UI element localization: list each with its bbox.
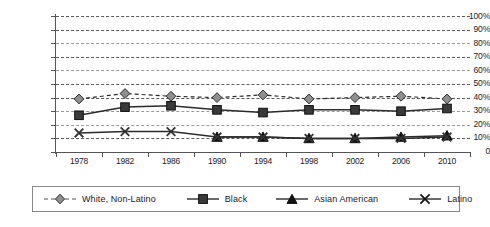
diamond-marker-icon xyxy=(442,94,452,104)
plot-area xyxy=(56,16,470,152)
square-marker-icon xyxy=(75,111,84,120)
x-axis-label: 1986 xyxy=(149,157,193,166)
x-axis-label: 2002 xyxy=(333,157,377,166)
diamond-marker-icon xyxy=(120,89,130,99)
diamond-marker-icon xyxy=(74,94,84,104)
x-marker-icon xyxy=(408,193,442,205)
chart-legend: White, Non-Latino Black Asian American xyxy=(32,186,460,212)
diamond-marker-icon xyxy=(258,90,268,100)
legend-item-asian-american[interactable]: Asian American xyxy=(275,187,378,211)
legend-item-label: Black xyxy=(225,194,248,204)
x-axis-label: 2010 xyxy=(425,157,469,166)
diamond-marker-icon xyxy=(166,91,176,101)
x-axis-label: 2006 xyxy=(379,157,423,166)
triangle-marker-icon xyxy=(275,193,309,205)
square-marker-icon xyxy=(351,106,360,115)
legend-item-label: Latino xyxy=(447,194,472,204)
square-marker-icon xyxy=(121,103,130,112)
square-marker-icon xyxy=(305,106,314,115)
square-marker-icon xyxy=(167,101,176,110)
series-0 xyxy=(74,89,452,104)
square-marker-icon xyxy=(259,108,268,117)
legend-item-latino[interactable]: Latino xyxy=(408,187,472,211)
series-layer xyxy=(56,16,470,152)
diamond-marker-icon xyxy=(43,193,77,205)
square-marker-icon xyxy=(186,193,220,205)
square-marker-icon xyxy=(397,107,406,116)
x-axis-label: 1982 xyxy=(103,157,147,166)
x-axis-label: 1978 xyxy=(57,157,101,166)
series-1 xyxy=(75,101,452,119)
legend-item-white-non-latino[interactable]: White, Non-Latino xyxy=(43,187,156,211)
diamond-marker-icon xyxy=(396,91,406,101)
legend-item-black[interactable]: Black xyxy=(186,187,248,211)
diamond-marker-icon xyxy=(212,93,222,103)
legend-item-label: Asian American xyxy=(314,194,378,204)
x-axis-label: 1990 xyxy=(195,157,239,166)
x-axis-line xyxy=(55,152,471,153)
line-chart: 100% 90% 80% 70% 60% 50% 40% 30% 20% 10%… xyxy=(0,0,490,227)
x-axis-label: 1998 xyxy=(287,157,331,166)
x-axis-tick xyxy=(470,152,471,157)
diamond-marker-icon xyxy=(304,94,314,104)
x-axis-label: 1994 xyxy=(241,157,285,166)
square-marker-icon xyxy=(443,104,452,113)
square-marker-icon xyxy=(213,106,222,115)
diamond-marker-icon xyxy=(350,93,360,103)
legend-item-label: White, Non-Latino xyxy=(82,194,156,204)
